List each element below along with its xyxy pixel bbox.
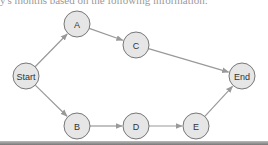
node-label: D [133,122,140,132]
node-label: A [74,20,80,30]
node-e: E [183,113,209,139]
edge-start-to-a [35,34,67,67]
bottom-divider [0,141,268,145]
node-label: End [234,72,250,82]
edge-a-to-c [89,28,123,40]
node-a: A [64,11,90,37]
node-label: Start [16,72,36,82]
node-start: Start [13,63,39,89]
edge-e-to-end [205,86,233,116]
node-d: D [123,113,149,139]
node-label: E [193,122,199,132]
node-c: C [123,32,149,58]
node-label: B [74,122,80,132]
nodes-group: StartABCDEEnd [13,11,255,139]
node-label: C [133,41,140,51]
node-end: End [229,63,255,89]
edge-c-to-end [148,49,228,72]
network-diagram: StartABCDEEnd [0,0,268,145]
edge-start-to-b [35,85,67,116]
node-b: B [64,113,90,139]
